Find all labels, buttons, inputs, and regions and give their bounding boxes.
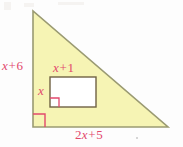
label-rect-top-number: 1 [68, 60, 75, 75]
figure-canvas [0, 0, 183, 147]
label-left-number: 6 [17, 58, 24, 73]
label-bottom-operator: + [88, 127, 97, 142]
trailing-punctuation-dot [136, 137, 138, 139]
label-bottom-side: 2x+5 [75, 128, 103, 141]
label-bottom-var: x [82, 127, 88, 142]
geometry-figure: x+6 x+1 x 2x+5 [0, 0, 183, 147]
label-rect-left-var: x [38, 83, 44, 98]
label-left-operator: + [8, 58, 17, 73]
label-rect-top-operator: + [59, 60, 68, 75]
label-rectangle-left: x [38, 84, 44, 97]
label-bottom-coefficient: 2 [75, 127, 82, 142]
rectangle-shape [50, 77, 96, 107]
label-bottom-number: 5 [96, 127, 103, 142]
label-rectangle-top: x+1 [53, 61, 74, 74]
label-left-side: x+6 [2, 59, 23, 72]
